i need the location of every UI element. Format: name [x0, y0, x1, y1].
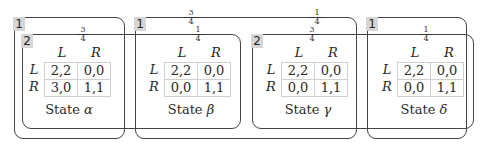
state-name: State α	[19, 102, 119, 117]
payoff-matrix: 2,20,0 0,01,1	[397, 62, 464, 97]
row-header: L	[27, 62, 41, 77]
probability-fraction: 3 4	[76, 26, 90, 43]
row-header: R	[380, 79, 394, 94]
payoff-cell: 0,0	[78, 63, 111, 80]
payoff-cell: 0,0	[282, 80, 315, 97]
state-name: State β	[141, 102, 241, 117]
probability-fraction: 1 4	[191, 26, 205, 43]
payoff-matrix: 2,20,0 0,01,1	[281, 62, 348, 97]
probability-fraction: 3 4	[184, 9, 198, 26]
player1-label: 1	[366, 17, 378, 31]
column-header: R	[432, 45, 466, 60]
player2-label: 2	[251, 34, 263, 48]
payoff-cell: 2,2	[398, 63, 431, 80]
column-header: R	[316, 45, 350, 60]
payoff-matrix: 2,20,0 0,01,1	[164, 62, 231, 97]
state-name: State δ	[374, 102, 474, 117]
column-header: R	[199, 45, 233, 60]
probability-fraction: 3 4	[305, 26, 319, 43]
payoff-cell: 0,0	[165, 80, 198, 97]
payoff-cell: 1,1	[198, 80, 231, 97]
column-header: L	[398, 45, 432, 60]
payoff-matrix: 2,20,0 3,01,1	[44, 62, 111, 97]
payoff-cell: 3,0	[45, 80, 78, 97]
payoff-cell: 0,0	[198, 63, 231, 80]
payoff-cell: 0,0	[398, 80, 431, 97]
payoff-cell: 2,2	[45, 63, 78, 80]
row-header: L	[147, 62, 161, 77]
state-name: State γ	[258, 102, 358, 117]
probability-fraction: 1 4	[310, 9, 324, 26]
payoff-cell: 2,2	[165, 63, 198, 80]
column-header: R	[79, 45, 113, 60]
row-header: R	[27, 79, 41, 94]
column-header: L	[165, 45, 199, 60]
payoff-cell: 1,1	[315, 80, 348, 97]
probability-fraction: 1 4	[419, 26, 433, 43]
row-header: R	[264, 79, 278, 94]
player1-label: 1	[134, 17, 146, 31]
payoff-cell: 1,1	[78, 80, 111, 97]
column-header: L	[282, 45, 316, 60]
player2-label: 2	[21, 34, 33, 48]
payoff-cell: 2,2	[282, 63, 315, 80]
payoff-cell: 1,1	[431, 80, 464, 97]
row-header: R	[147, 79, 161, 94]
row-header: L	[264, 62, 278, 77]
column-header: L	[45, 45, 79, 60]
row-header: L	[380, 62, 394, 77]
payoff-cell: 0,0	[315, 63, 348, 80]
payoff-cell: 0,0	[431, 63, 464, 80]
player1-label: 1	[13, 17, 25, 31]
